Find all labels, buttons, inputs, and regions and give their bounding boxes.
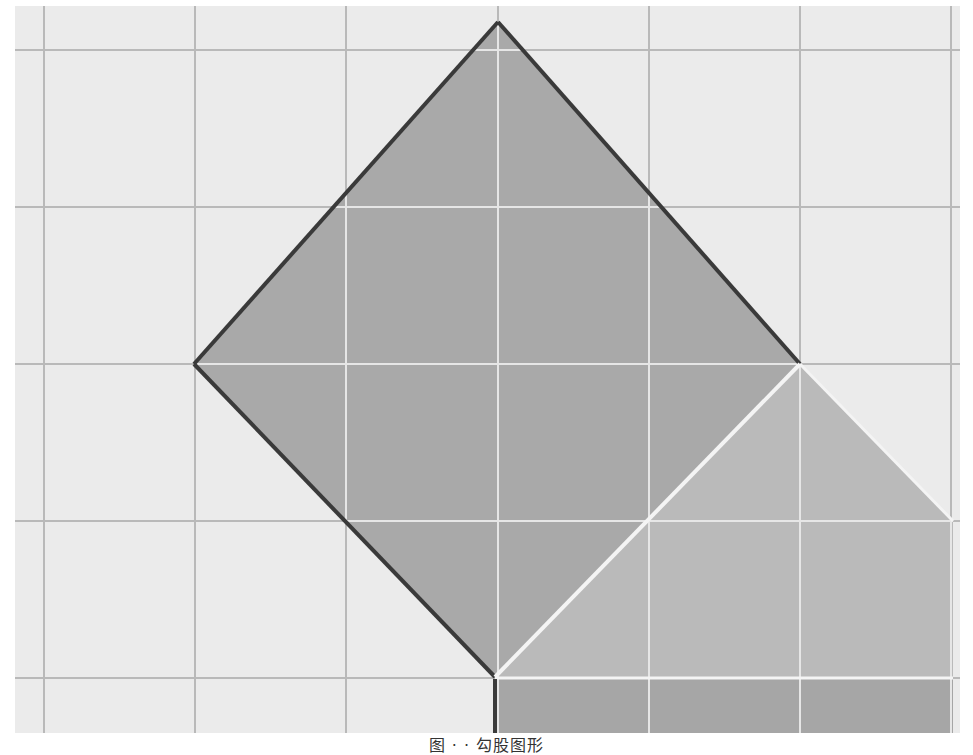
bottom-square [495, 679, 953, 733]
figure-caption: 图 · · 勾股图形 [0, 737, 973, 755]
